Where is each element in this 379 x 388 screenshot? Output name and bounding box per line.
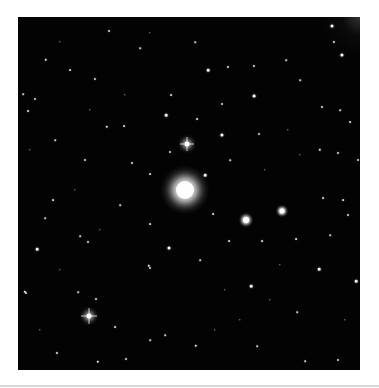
star [44, 217, 46, 219]
star [261, 240, 263, 242]
bright-star [87, 314, 92, 319]
star [349, 121, 351, 123]
star [194, 41, 196, 43]
galaxy-core [243, 217, 249, 223]
star [329, 234, 331, 236]
star [95, 298, 97, 300]
star [149, 267, 151, 269]
star [139, 47, 141, 49]
star [170, 94, 172, 96]
star [164, 334, 166, 336]
bright-star [185, 142, 190, 147]
star [347, 214, 349, 216]
star [299, 79, 301, 81]
star [357, 159, 359, 161]
star [168, 247, 171, 250]
star [52, 199, 54, 201]
star [258, 133, 260, 135]
star [318, 268, 321, 271]
star [169, 151, 171, 153]
star [84, 159, 86, 161]
star [123, 125, 125, 127]
star [229, 159, 231, 161]
star [304, 360, 306, 362]
star [87, 241, 89, 243]
star [342, 199, 344, 201]
star [212, 213, 214, 215]
star [69, 69, 71, 71]
bottom-divider [0, 385, 379, 387]
star [339, 109, 341, 111]
star [27, 110, 29, 112]
star [119, 204, 121, 206]
star [337, 152, 339, 154]
star [149, 173, 151, 175]
star [36, 248, 39, 251]
star [228, 240, 230, 242]
star [221, 103, 223, 105]
star [54, 139, 56, 141]
star [337, 359, 339, 361]
star [114, 326, 116, 328]
star [296, 311, 298, 313]
star [295, 238, 297, 240]
star [322, 197, 324, 199]
star [331, 25, 334, 28]
star [79, 235, 81, 237]
galaxy-core [280, 209, 285, 214]
star [321, 106, 323, 108]
star [149, 339, 151, 341]
star [165, 114, 168, 117]
star [196, 118, 198, 120]
star [108, 30, 110, 32]
star [125, 358, 127, 360]
star [149, 223, 151, 225]
star [355, 280, 358, 283]
star [34, 98, 36, 100]
star [253, 95, 256, 98]
star [22, 93, 24, 95]
star [250, 285, 253, 288]
star [199, 259, 201, 261]
star [285, 59, 287, 61]
star [207, 69, 210, 72]
star [77, 291, 79, 293]
star [256, 345, 258, 347]
star [25, 292, 27, 294]
galaxy-core [176, 181, 194, 199]
star-field-image [18, 17, 360, 370]
star [131, 162, 133, 164]
